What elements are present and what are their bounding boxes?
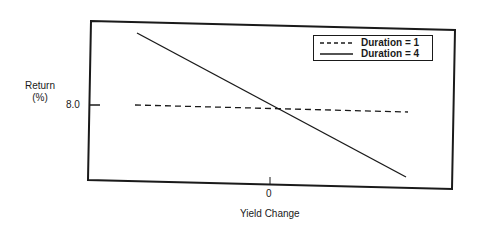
solid-line-swatch-icon	[320, 52, 353, 56]
y-axis-label-line-2: (%)	[20, 92, 60, 104]
x-axis-label: Yield Change	[240, 208, 300, 219]
legend-label: Duration = 4	[361, 48, 419, 59]
y-axis-label: Return (%)	[20, 80, 60, 104]
x-tick-label: 0	[266, 188, 272, 199]
y-tick-label: 8.0	[66, 99, 80, 110]
legend-label: Duration = 1	[361, 37, 419, 48]
y-axis-label-line-1: Return	[20, 80, 60, 92]
legend-item-duration-4: Duration = 4	[320, 48, 426, 59]
series-duration-1-line	[135, 105, 408, 112]
dashed-line-swatch-icon	[320, 41, 353, 45]
legend: Duration = 1 Duration = 4	[313, 35, 433, 61]
legend-item-duration-1: Duration = 1	[320, 37, 426, 48]
